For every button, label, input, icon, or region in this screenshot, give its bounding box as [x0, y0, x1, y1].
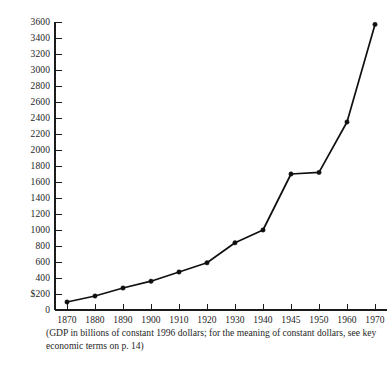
y-axis-tick-label: 1400: [31, 193, 51, 203]
x-axis-tick-label: 1940: [253, 315, 273, 325]
x-axis-tick-label: 1890: [113, 315, 133, 325]
y-axis-tick-label: 2800: [31, 81, 51, 91]
y-axis-tick-label: 1600: [31, 177, 51, 187]
x-axis-tick-label: 1900: [141, 315, 161, 325]
x-axis-tick-label: 1870: [57, 315, 77, 325]
y-axis-tick-mark-group: [55, 22, 62, 294]
y-axis-tick-label: 400: [35, 273, 50, 283]
gdp-series-line: [67, 24, 375, 302]
data-point-marker: [233, 241, 237, 245]
y-axis-tick-label: 0: [45, 305, 50, 315]
x-axis-tick-label: 1960: [337, 315, 357, 325]
gdp-series-marker-group: [65, 22, 377, 304]
y-axis-tick-label: 3600: [31, 17, 51, 27]
data-point-marker: [317, 170, 321, 174]
x-axis-tick-label-group: 1870188018901900191019201930194019451950…: [57, 315, 385, 325]
y-axis-tick-label: 2600: [31, 97, 51, 107]
x-axis-tick-label: 1950: [309, 315, 329, 325]
x-axis-tick-label: 1920: [197, 315, 217, 325]
data-point-marker: [373, 22, 377, 26]
y-axis-tick-label: 3200: [31, 49, 51, 59]
y-axis-tick-label: 600: [35, 257, 50, 267]
data-point-marker: [205, 261, 209, 265]
data-point-marker: [121, 286, 125, 290]
data-point-marker: [289, 172, 293, 176]
data-point-marker: [345, 120, 349, 124]
y-axis-tick-label: 3000: [31, 65, 51, 75]
x-axis-tick-label: 1910: [169, 315, 189, 325]
y-axis-tick-label: 1000: [31, 225, 51, 235]
x-axis-tick-label: 1970: [365, 315, 385, 325]
data-point-marker: [65, 300, 69, 304]
x-axis-tick-label: 1880: [85, 315, 105, 325]
data-point-marker: [149, 279, 153, 283]
y-axis-tick-label: 1800: [31, 161, 51, 171]
chart-caption: (GDP in billions of constant 1996 dollar…: [46, 326, 382, 352]
y-axis-tick-label: 2200: [31, 129, 51, 139]
data-point-marker: [261, 228, 265, 232]
x-axis-tick-label: 1945: [281, 315, 301, 325]
y-axis-tick-label: 800: [35, 241, 50, 251]
y-axis-tick-label: $200: [31, 289, 51, 299]
y-axis-tick-label: 2400: [31, 113, 51, 123]
data-point-marker: [93, 294, 97, 298]
y-axis-tick-label-group: 0$20040060080010001200140016001800200022…: [31, 17, 51, 315]
gdp-line-chart-figure: 0$20040060080010001200140016001800200022…: [0, 0, 390, 369]
y-axis-tick-label: 2000: [31, 145, 51, 155]
data-point-marker: [177, 270, 181, 274]
x-axis-tick-mark-group: [67, 304, 375, 310]
chart-plot-area: 0$20040060080010001200140016001800200022…: [0, 0, 390, 330]
y-axis-tick-label: 3400: [31, 33, 51, 43]
y-axis-tick-label: 1200: [31, 209, 51, 219]
x-axis-tick-label: 1930: [225, 315, 245, 325]
